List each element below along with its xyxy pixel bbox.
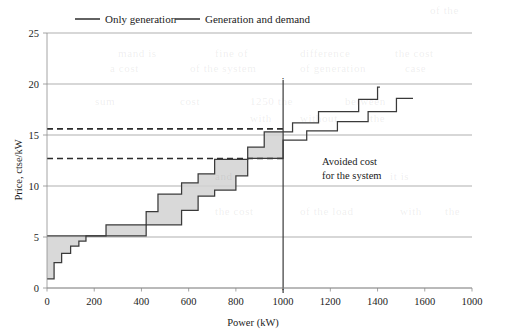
y-tick-label-0: 0 (34, 283, 39, 294)
x-tick-label-1000: 1000 (273, 296, 294, 307)
x-tick-label-400: 400 (134, 296, 150, 307)
axes (43, 33, 472, 292)
marker-top: · (281, 73, 285, 84)
marker-bottom: · (281, 284, 285, 295)
x-tick-label-800: 800 (228, 296, 244, 307)
y-tick-labels: 0510152025 (29, 28, 40, 294)
avoided-cost-step-chart: Only generation Generation and demand 02… (0, 0, 506, 333)
y-tick-label-15: 15 (29, 130, 40, 141)
y-tick-label-20: 20 (29, 79, 40, 90)
y-tick-label-10: 10 (29, 181, 40, 192)
y-tick-label-25: 25 (29, 28, 40, 39)
x-tick-label-1800: 1000 (462, 296, 483, 307)
legend-label-generation-and-demand: Generation and demand (205, 13, 311, 25)
grid-lines (47, 33, 472, 288)
figure-container: Only generation Generation and demand 02… (0, 0, 506, 333)
legend-label-only-generation: Only generation (105, 13, 177, 25)
x-tick-label-600: 600 (181, 296, 197, 307)
x-axis-title: Power (kW) (227, 317, 279, 329)
x-tick-label-1400: 1400 (367, 296, 388, 307)
x-tick-label-1600: 1600 (414, 296, 435, 307)
x-tick-label-200: 200 (86, 296, 102, 307)
x-tick-label-1200: 1200 (320, 296, 341, 307)
avoided-cost-note: Avoided cost for the system (322, 156, 382, 181)
legend: Only generation Generation and demand (75, 13, 311, 25)
avoided-cost-note-line1: Avoided cost (322, 156, 377, 167)
y-axis-title: Price, ctse/kW (13, 139, 24, 200)
reference-lines (47, 80, 283, 293)
y-tick-label-5: 5 (34, 232, 39, 243)
x-tick-label-0: 0 (44, 296, 49, 307)
x-tick-labels: 020040060080010001200140016001000 (44, 296, 482, 307)
avoided-cost-note-line2: for the system (322, 170, 382, 181)
